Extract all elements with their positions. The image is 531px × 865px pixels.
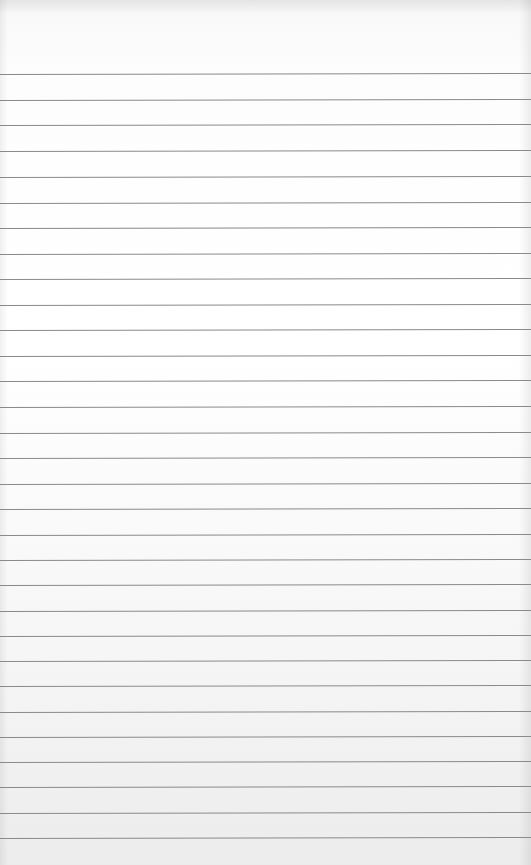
ruled-line — [0, 329, 531, 331]
ruled-line — [0, 406, 531, 408]
ruled-line — [0, 227, 531, 229]
ruled-line — [0, 253, 531, 255]
ruled-line — [0, 584, 531, 586]
ruled-line — [0, 685, 531, 687]
ruled-line — [0, 635, 531, 637]
ruled-line — [0, 457, 531, 459]
ruled-line — [0, 278, 531, 280]
ruled-line — [0, 124, 531, 126]
ruled-line — [0, 432, 531, 434]
ruled-line — [0, 610, 531, 612]
ruled-line — [0, 355, 531, 357]
ruled-line — [0, 176, 531, 178]
ruled-line — [0, 660, 531, 662]
ruled-line — [0, 812, 531, 814]
ruled-paper — [0, 0, 531, 865]
ruled-line — [0, 508, 531, 510]
ruled-line — [0, 380, 531, 382]
ruled-line — [0, 304, 531, 306]
ruled-line — [0, 99, 531, 101]
ruled-line — [0, 559, 531, 561]
ruled-line — [0, 534, 531, 536]
ruled-line — [0, 736, 531, 738]
ruled-line — [0, 150, 531, 152]
ruled-line — [0, 786, 531, 788]
ruled-line — [0, 73, 531, 75]
ruled-line — [0, 711, 531, 713]
top-edge-shadow — [0, 0, 531, 14]
ruled-line — [0, 837, 531, 839]
ruled-line — [0, 761, 531, 763]
ruled-line — [0, 202, 531, 204]
ruled-line — [0, 483, 531, 485]
